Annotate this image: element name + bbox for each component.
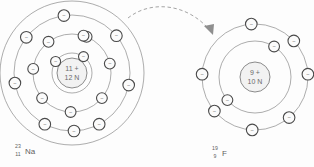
electron-sign: – [115,32,118,38]
fluorine-neutron-label: 10 N [248,78,263,85]
electron: – [39,118,51,130]
electron: – [269,41,280,52]
electron: – [209,105,221,117]
electron-sign: – [251,127,254,133]
electron-sign: – [69,109,72,115]
electron-sign: – [82,32,85,38]
sodium-label: 23 11 Na [15,143,36,157]
electron-sign: – [288,114,291,120]
sodium-symbol: Na [25,147,36,156]
transfer-arrow-path [128,7,212,33]
electron-sign: – [273,43,276,49]
electron: – [78,30,89,41]
electron-sign: – [213,108,216,114]
electron-sign: – [41,95,44,101]
fluorine-symbol: F [222,149,227,158]
electron-transfer-arrow [128,7,214,35]
electron-sign: – [47,39,50,45]
fluorine-label: 19 9 F [212,145,227,159]
fluorine-mass-number: 19 [212,145,218,151]
electron-sign: – [98,121,101,127]
electron: – [246,124,258,136]
electron: – [93,118,105,130]
sodium-proton-label: 11 + [65,65,78,72]
sodium-nucleus [57,58,87,88]
electron: – [43,36,54,47]
fluorine-nucleus [240,62,270,92]
atom-fluorine: 9 + 10 N – – – [196,18,313,159]
electron: – [283,112,295,124]
electron-sign: – [101,95,104,101]
ionic-bond-diagram: 11 + 12 N – – – [0,0,314,167]
electron: – [302,68,314,80]
sodium-atomic-number: 11 [15,151,20,157]
electron: – [196,68,208,80]
electron-sign: – [201,71,204,77]
sodium-mass-number: 23 [15,143,21,149]
electron[interactable]: – [111,30,123,42]
electron-sign: – [14,80,17,86]
electron: – [104,58,115,69]
electron-sign: – [226,97,229,103]
electron: – [288,35,300,47]
electron: – [79,52,89,62]
electron: – [58,10,70,22]
electron-sign: – [25,34,28,40]
atom-sodium: 11 + 12 N – – – [0,1,144,157]
electron: – [123,79,135,91]
electron: – [37,93,48,104]
electron-sign: – [32,66,35,72]
electron: – [28,64,39,75]
electron-sign: – [54,58,57,64]
electron-sign: – [82,53,85,59]
electron: – [222,95,233,106]
fluorine-atomic-number: 9 [214,153,217,159]
diagram-canvas: 11 + 12 N – – – [0,0,314,167]
electron-sign: – [63,12,66,18]
electron: – [246,18,258,30]
fluorine-proton-label: 9 + [250,69,260,76]
electron: – [21,32,33,44]
electron: – [9,77,21,89]
sodium-neutron-label: 12 N [65,74,80,81]
electron-sign: – [108,60,111,66]
electron-sign: – [307,71,310,77]
electron-sign: – [43,121,46,127]
electron: – [97,93,108,104]
electron-sign: – [250,21,253,27]
electron-sign: – [127,82,130,88]
electron-sign: – [292,38,295,44]
electron-sign: – [73,128,76,134]
electron: – [51,57,61,67]
electron: – [68,125,80,137]
electron: – [65,107,76,118]
